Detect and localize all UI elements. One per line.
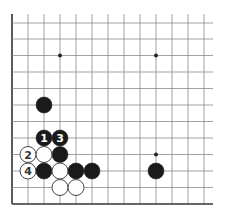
black-stone <box>84 163 100 179</box>
move-number: 3 <box>56 132 64 145</box>
white-stone-icon <box>36 147 52 163</box>
white-stone-move-2: 2 <box>20 147 36 163</box>
star-point-icon <box>58 54 62 58</box>
black-stone <box>52 147 68 163</box>
white-stone-icon <box>52 180 68 196</box>
move-number: 2 <box>24 149 32 162</box>
white-stone <box>52 180 68 196</box>
white-stone-icon <box>68 180 84 196</box>
black-stone <box>36 97 52 113</box>
black-stone-icon <box>36 97 52 113</box>
move-number: 4 <box>24 165 32 178</box>
black-stone <box>36 163 52 179</box>
go-board-diagram: 1324 <box>0 0 225 215</box>
move-number: 1 <box>40 132 48 145</box>
black-stone-icon <box>148 163 164 179</box>
white-stone <box>36 147 52 163</box>
black-stone-icon <box>68 163 84 179</box>
white-stone-move-4: 4 <box>20 163 36 179</box>
white-stone <box>52 163 68 179</box>
star-point-icon <box>154 54 158 58</box>
black-stone <box>68 163 84 179</box>
white-stone-icon <box>52 163 68 179</box>
black-stone-move-1: 1 <box>36 130 52 146</box>
black-stone <box>148 163 164 179</box>
black-stone-icon <box>52 147 68 163</box>
star-point-icon <box>154 153 158 157</box>
black-stone-icon <box>36 163 52 179</box>
black-stone-move-3: 3 <box>52 130 68 146</box>
black-stone-icon <box>84 163 100 179</box>
white-stone <box>68 180 84 196</box>
